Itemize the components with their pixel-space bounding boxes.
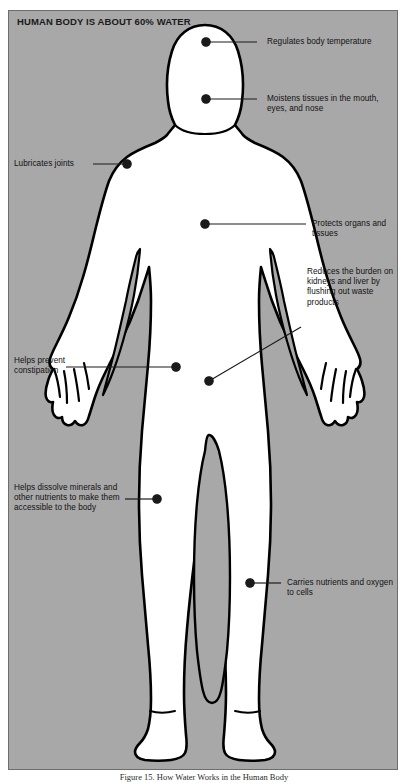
callout-reduces-burden: Reduces the burden on kidneys and liver … [307, 267, 397, 308]
callout-regulates-body-temperature: Regulates body temperature [267, 37, 398, 47]
callout-helps-dissolve-minerals: Helps dissolve minerals and other nutrie… [14, 483, 128, 514]
diagram-panel: HUMAN BODY IS ABOUT 60% WATER [8, 10, 398, 770]
callout-label: Protects organs and tissues [312, 219, 386, 238]
leg-gap-wedge [194, 435, 230, 703]
callout-label: Reduces the burden on kidneys and liver … [307, 267, 393, 307]
page-title: HUMAN BODY IS ABOUT 60% WATER [17, 16, 191, 27]
figure-root: HUMAN BODY IS ABOUT 60% WATER [0, 0, 408, 784]
callout-protects-organs: Protects organs and tissues [312, 219, 398, 239]
figure-caption: Figure 15. How Water Works in the Human … [0, 772, 408, 782]
callout-moistens-tissues: Moistens tissues in the mouth, eyes, and… [267, 94, 398, 114]
callout-carries-nutrients: Carries nutrients and oxygen to cells [287, 578, 395, 598]
callout-label: Carries nutrients and oxygen to cells [287, 578, 393, 597]
callout-label: Helps dissolve minerals and other nutrie… [14, 483, 120, 512]
callout-label: Lubricates joints [14, 159, 74, 168]
callout-label: Moistens tissues in the mouth, eyes, and… [267, 94, 379, 113]
callout-helps-prevent-constipation: Helps prevent constipation [14, 356, 74, 376]
callout-label: Regulates body temperature [267, 37, 372, 46]
human-body-silhouette [9, 11, 398, 770]
callout-lubricates-joints: Lubricates joints [14, 159, 94, 169]
callout-label: Helps prevent constipation [14, 356, 65, 375]
